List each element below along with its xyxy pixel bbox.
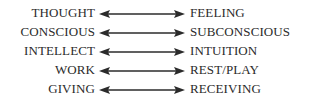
double-arrow-icon xyxy=(99,47,185,57)
pair-row-giving-receiving: GIVING RECEIVING xyxy=(0,80,317,99)
right-term: FEELING xyxy=(190,5,245,21)
pair-row-thought-feeling: THOUGHT FEELING xyxy=(0,4,317,23)
left-term: WORK xyxy=(55,62,95,78)
double-arrow-icon xyxy=(99,9,185,19)
left-term: INTELLECT xyxy=(24,43,95,59)
pair-row-work-restplay: WORK REST/PLAY xyxy=(0,61,317,80)
left-term: THOUGHT xyxy=(31,5,95,21)
double-arrow-icon xyxy=(99,28,185,38)
pair-row-conscious-subconscious: CONSCIOUS SUBCONSCIOUS xyxy=(0,23,317,42)
left-term: CONSCIOUS xyxy=(20,24,95,40)
right-term: SUBCONSCIOUS xyxy=(190,24,290,40)
double-arrow-icon xyxy=(99,85,185,95)
right-term: REST/PLAY xyxy=(190,62,259,78)
pair-row-intellect-intuition: INTELLECT INTUITION xyxy=(0,42,317,61)
polarity-diagram: THOUGHT FEELING CONSCIOUS SUBCONSCIOUS I… xyxy=(0,4,317,99)
right-term: INTUITION xyxy=(190,43,257,59)
left-term: GIVING xyxy=(48,81,95,97)
right-term: RECEIVING xyxy=(190,81,261,97)
double-arrow-icon xyxy=(99,66,185,76)
